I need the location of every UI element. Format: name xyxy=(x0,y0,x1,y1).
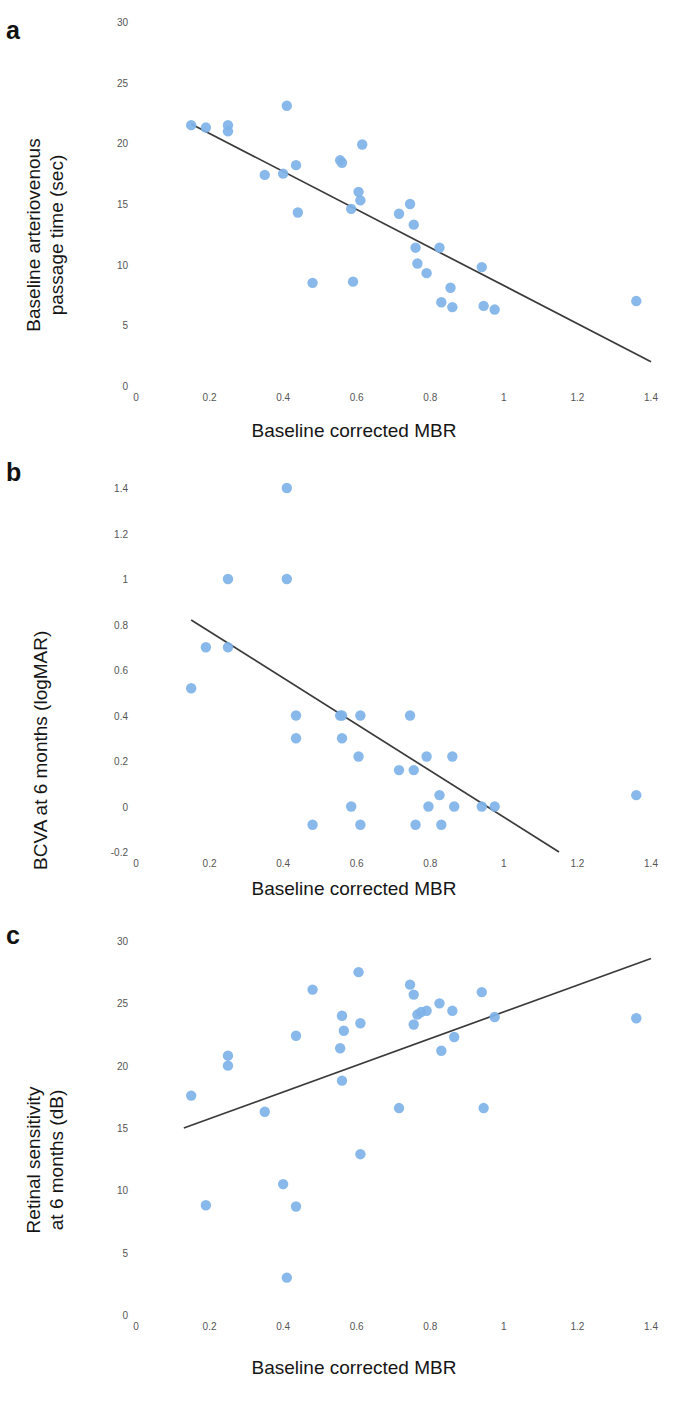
data-point xyxy=(335,1043,345,1053)
y-tick-label: 15 xyxy=(94,1123,128,1134)
y-tick-label: 0.8 xyxy=(94,619,128,630)
data-point xyxy=(409,989,419,999)
y-tick-label: 0 xyxy=(94,381,128,392)
data-point xyxy=(434,242,444,252)
data-point xyxy=(355,710,365,720)
data-point xyxy=(186,120,196,130)
data-point xyxy=(477,262,487,272)
data-point xyxy=(409,219,419,229)
y-tick-label: 0.6 xyxy=(94,665,128,676)
data-point xyxy=(631,296,641,306)
x-tick-label: 1 xyxy=(501,1321,507,1332)
x-tick-label: 0 xyxy=(133,392,139,403)
data-point xyxy=(291,1201,301,1211)
x-tick-label: 1.2 xyxy=(570,1321,584,1332)
data-point xyxy=(346,801,356,811)
y-tick-label: 5 xyxy=(94,320,128,331)
x-tick-label: 1 xyxy=(501,392,507,403)
data-point xyxy=(282,101,292,111)
x-tick-label: 1.4 xyxy=(644,858,658,869)
panel-c: c Retinal sensitivity at 6 months (dB) 0… xyxy=(0,905,678,1403)
data-point xyxy=(353,751,363,761)
data-point xyxy=(291,1031,301,1041)
y-tick-label: 30 xyxy=(94,936,128,947)
x-tick-label: 0.4 xyxy=(276,1321,290,1332)
data-point xyxy=(447,1006,457,1016)
data-point xyxy=(489,1012,499,1022)
data-point xyxy=(282,1272,292,1282)
data-point xyxy=(394,209,404,219)
data-point xyxy=(201,122,211,132)
y-tick-label: 1 xyxy=(94,574,128,585)
y-tick-label: 10 xyxy=(94,259,128,270)
panel-b-regression-line xyxy=(191,620,559,852)
y-tick-label: 0.4 xyxy=(94,710,128,721)
panel-c-canvas xyxy=(78,933,663,1333)
data-point xyxy=(410,820,420,830)
data-point xyxy=(405,979,415,989)
data-point xyxy=(223,574,233,584)
panel-a: a Baseline arteriovenous passage time (s… xyxy=(0,0,678,450)
x-tick-label: 1.2 xyxy=(570,392,584,403)
y-tick-label: 10 xyxy=(94,1185,128,1196)
data-point xyxy=(353,967,363,977)
data-point xyxy=(223,642,233,652)
data-point xyxy=(445,283,455,293)
y-tick-label: -0.2 xyxy=(94,847,128,858)
data-point xyxy=(337,733,347,743)
data-point xyxy=(489,304,499,314)
panel-a-x-axis-label: Baseline corrected MBR xyxy=(30,420,678,442)
data-point xyxy=(355,1018,365,1028)
data-point xyxy=(477,987,487,997)
data-point xyxy=(355,820,365,830)
data-point xyxy=(291,710,301,720)
data-point xyxy=(436,297,446,307)
y-tick-label: 5 xyxy=(94,1247,128,1258)
panel-c-y-label-line1: Retinal sensitivity xyxy=(23,1087,44,1234)
x-tick-label: 0.6 xyxy=(350,858,364,869)
data-point xyxy=(337,158,347,168)
panel-c-plot-area: 00.20.40.60.811.21.4051015202530 xyxy=(78,933,663,1333)
y-tick-label: 25 xyxy=(94,77,128,88)
data-point xyxy=(355,1149,365,1159)
data-point xyxy=(394,1103,404,1113)
data-point xyxy=(278,1179,288,1189)
x-tick-label: 0.8 xyxy=(423,858,437,869)
panel-c-x-axis-label: Baseline corrected MBR xyxy=(30,1357,678,1379)
panel-b-x-axis-label: Baseline corrected MBR xyxy=(30,878,678,900)
data-point xyxy=(339,1026,349,1036)
data-point xyxy=(337,1011,347,1021)
data-point xyxy=(434,790,444,800)
data-point xyxy=(348,276,358,286)
x-tick-label: 0.6 xyxy=(350,1321,364,1332)
data-point xyxy=(410,242,420,252)
y-tick-label: 1.2 xyxy=(94,528,128,539)
data-point xyxy=(337,1075,347,1085)
data-point xyxy=(449,801,459,811)
data-point xyxy=(405,199,415,209)
panel-b-canvas xyxy=(78,480,663,870)
data-point xyxy=(355,195,365,205)
data-point xyxy=(307,820,317,830)
data-point xyxy=(436,1046,446,1056)
data-point xyxy=(421,268,431,278)
y-tick-label: 0.2 xyxy=(94,756,128,767)
data-point xyxy=(307,984,317,994)
data-point xyxy=(293,207,303,217)
x-tick-label: 0.2 xyxy=(203,858,217,869)
x-tick-label: 1.4 xyxy=(644,392,658,403)
data-point xyxy=(223,126,233,136)
panel-a-label: a xyxy=(6,18,20,43)
data-point xyxy=(394,765,404,775)
data-point xyxy=(405,710,415,720)
y-tick-label: 20 xyxy=(94,138,128,149)
x-tick-label: 0.4 xyxy=(276,392,290,403)
data-point xyxy=(278,168,288,178)
panel-c-label: c xyxy=(6,923,20,948)
data-point xyxy=(434,998,444,1008)
y-tick-label: 20 xyxy=(94,1060,128,1071)
y-tick-label: 1.4 xyxy=(94,483,128,494)
data-point xyxy=(337,710,347,720)
data-point xyxy=(357,139,367,149)
data-point xyxy=(447,751,457,761)
